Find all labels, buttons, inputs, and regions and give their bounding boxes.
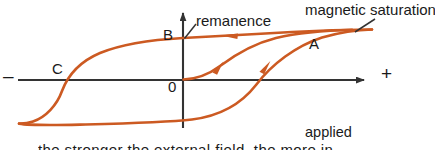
label-positive-sign: +	[381, 64, 392, 83]
label-negative-sign: –	[3, 66, 14, 85]
label-origin: 0	[168, 79, 176, 94]
hysteresis-loop-figure: remanence magnetic saturation B A C 0 – …	[0, 0, 435, 150]
flow-arrowheads	[211, 34, 271, 76]
clipped-caption-text: the stronger the external field, the mor…	[38, 141, 428, 150]
label-point-a: A	[309, 36, 319, 51]
label-point-c: C	[52, 61, 63, 76]
label-x-axis-name-line1: applied	[305, 124, 364, 140]
label-remanence: remanence	[196, 13, 271, 28]
label-magnetic-saturation: magnetic saturation	[305, 2, 435, 17]
label-point-b: B	[163, 27, 173, 42]
